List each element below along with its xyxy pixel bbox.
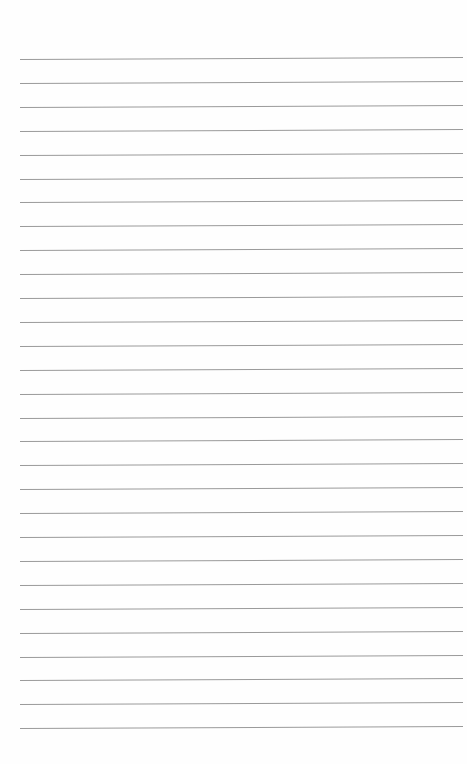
ruled-line bbox=[20, 726, 463, 729]
ruled-line bbox=[20, 607, 463, 610]
ruled-line bbox=[20, 463, 463, 466]
ruled-line bbox=[20, 344, 463, 347]
ruled-line bbox=[20, 296, 463, 299]
ruled-line bbox=[20, 655, 463, 658]
ruled-line bbox=[20, 439, 463, 442]
ruled-line bbox=[20, 57, 463, 60]
ruled-line bbox=[20, 416, 463, 419]
ruled-line bbox=[20, 105, 463, 108]
ruled-line bbox=[20, 631, 463, 634]
ruled-line bbox=[20, 487, 463, 490]
ruled-line bbox=[20, 392, 463, 395]
ruled-line bbox=[20, 320, 463, 323]
ruled-line bbox=[20, 129, 463, 132]
ruled-line bbox=[20, 368, 463, 371]
ruled-line bbox=[20, 224, 463, 227]
ruled-line bbox=[20, 272, 463, 275]
ruled-line bbox=[20, 177, 463, 180]
ruled-line bbox=[20, 248, 463, 251]
ruled-line bbox=[20, 678, 463, 681]
ruled-line bbox=[20, 702, 463, 705]
ruled-line bbox=[20, 559, 463, 562]
ruled-line bbox=[20, 200, 463, 203]
lined-paper-page bbox=[0, 0, 467, 764]
ruled-line bbox=[20, 535, 463, 538]
ruled-line bbox=[20, 81, 463, 84]
ruled-line bbox=[20, 153, 463, 156]
ruled-line bbox=[20, 511, 463, 514]
ruled-line bbox=[20, 583, 463, 586]
